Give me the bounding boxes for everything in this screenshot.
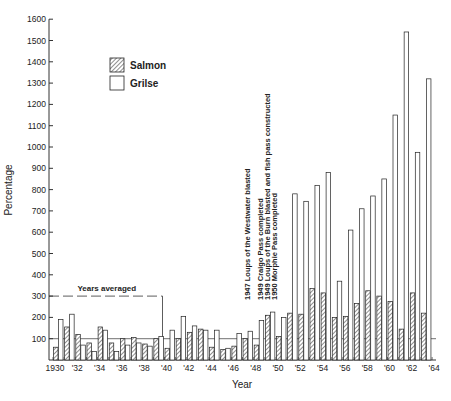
salmon-bar (265, 315, 270, 360)
y-axis-title: Percentage (3, 164, 14, 216)
grilse-bar (382, 179, 387, 360)
x-tick-label: '40 (161, 363, 172, 373)
salmon-bar (87, 343, 92, 360)
x-tick-label: '52 (295, 363, 306, 373)
grilse-bar (337, 281, 342, 360)
grilse-bar (415, 152, 420, 360)
salmon-bar (377, 296, 382, 360)
salmon-bar (176, 339, 181, 360)
salmon-bar (321, 293, 326, 360)
grilse-bar (404, 32, 409, 360)
grilse-bar (170, 330, 175, 360)
salmon-bar (288, 313, 293, 360)
grilse-bar (81, 345, 86, 360)
x-tick-label: '32 (72, 363, 83, 373)
grilse-bar (293, 194, 298, 360)
grilse-bar (371, 196, 376, 360)
grilse-bar (226, 348, 231, 360)
x-tick-label: '38 (139, 363, 150, 373)
y-tick-label: 1600 (27, 14, 46, 24)
grilse-bar (159, 337, 164, 360)
averaged-label: Years averaged (77, 284, 136, 293)
x-axis-title: Year (232, 379, 253, 390)
x-tick-label: '58 (362, 363, 373, 373)
grilse-bar (426, 79, 431, 360)
legend: SalmonGrilse (110, 58, 166, 90)
grilse-bar (103, 330, 108, 360)
grilse-bar (326, 173, 331, 360)
grilse-bar (282, 317, 287, 360)
y-tick-label: 600 (32, 227, 46, 237)
annotation-text: 1947 Loups of the Westwater blasted (243, 168, 252, 300)
salmon-bar (355, 304, 360, 360)
grilse-bar (270, 312, 275, 360)
y-tick-label: 1000 (27, 142, 46, 152)
y-tick-label: 200 (32, 312, 46, 322)
y-tick-label: 100 (32, 334, 46, 344)
salmon-bar (232, 346, 237, 360)
salmon-bar (366, 291, 371, 360)
x-tick-label: '64 (429, 363, 440, 373)
salmon-bar (210, 347, 215, 360)
x-tick-label: '56 (339, 363, 350, 373)
salmon-bar (109, 343, 114, 360)
y-tick-label: 400 (32, 270, 46, 280)
salmon-bar (98, 327, 103, 360)
legend-grilse-label: Grilse (130, 78, 159, 89)
x-tick-label: '36 (116, 363, 127, 373)
salmon-bar (243, 339, 248, 360)
grilse-bar (181, 316, 186, 360)
legend-grilse-swatch (110, 76, 124, 90)
salmon-bar (154, 339, 159, 360)
legend-salmon-swatch (110, 58, 124, 72)
salmon-bar (198, 329, 203, 360)
salmon-bar (120, 339, 125, 360)
y-tick-label: 1300 (27, 78, 46, 88)
salmon-bar (332, 317, 337, 360)
salmon-bar (410, 293, 415, 360)
salmon-bar (65, 327, 70, 360)
grilse-bar (393, 115, 398, 360)
salmon-bar (388, 301, 393, 360)
salmon-bar (54, 347, 59, 360)
salmon-bar (221, 349, 226, 360)
salmon-bar (277, 337, 282, 360)
grilse-bar (70, 314, 75, 360)
x-tick-label: '42 (183, 363, 194, 373)
grilse-bar (237, 333, 242, 360)
grilse-bar (148, 346, 153, 360)
x-tick-label: '60 (384, 363, 395, 373)
grilse-bar (315, 185, 320, 360)
x-tick-label: '62 (406, 363, 417, 373)
salmon-bar (132, 338, 137, 360)
salmon-bar (187, 332, 192, 360)
grilse-bar (259, 321, 264, 360)
salmon-bar (299, 314, 304, 360)
salmon-bar (399, 329, 404, 360)
grilse-bar (114, 351, 119, 360)
salmon-bar (165, 348, 170, 360)
grilse-bar (203, 330, 208, 360)
salmon-bar (254, 345, 259, 360)
y-tick-label: 500 (32, 249, 46, 259)
grilse-bar (137, 343, 142, 360)
y-tick-label: 1100 (28, 121, 47, 131)
salmon-bar (421, 313, 426, 360)
y-tick-label: 700 (32, 206, 46, 216)
x-tick-label: '48 (250, 363, 261, 373)
x-tick-label: '34 (94, 363, 105, 373)
salmon-bar (343, 316, 348, 360)
grilse-bar (125, 345, 129, 360)
y-tick-label: 1400 (27, 57, 46, 67)
grilse-bar (360, 209, 365, 360)
grilse-bar (215, 330, 220, 360)
legend-salmon-label: Salmon (130, 60, 166, 71)
annotations: 1947 Loups of the Westwater blasted1949 … (243, 93, 279, 300)
y-tick-label: 1200 (27, 99, 46, 109)
x-tick-label: 1930 (46, 363, 65, 373)
annotation-text: 1950 Morphie Pass completed (270, 192, 279, 300)
grilse-bar (248, 331, 253, 360)
salmon-bar (310, 289, 315, 360)
salmon-bar (143, 344, 148, 360)
x-tick-label: '50 (272, 363, 283, 373)
